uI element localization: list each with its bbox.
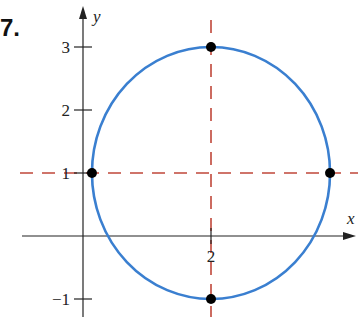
x-axis-arrow-icon [343, 232, 356, 240]
data-point [87, 168, 97, 178]
y-axis-label: y [91, 7, 101, 26]
x-axis-label: x [346, 209, 355, 228]
x-tick-label: 2 [207, 247, 216, 266]
data-point [206, 294, 216, 304]
guide-lines [20, 20, 358, 317]
axes [22, 6, 356, 317]
y-axis-arrow-icon [79, 6, 87, 19]
y-tick-label: −1 [52, 290, 70, 309]
data-point [325, 168, 335, 178]
y-tick-label: 3 [62, 38, 71, 57]
y-tick-label: 2 [62, 101, 71, 120]
tick-labels: xy321−12 [52, 7, 355, 309]
coordinate-plot: xy321−12 [0, 0, 362, 317]
y-tick-label: 1 [62, 164, 71, 183]
data-point [206, 42, 216, 52]
